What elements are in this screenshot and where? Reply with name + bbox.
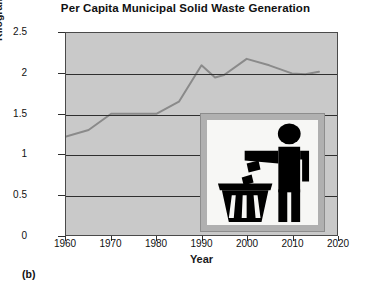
x-tick-label: 1960 bbox=[43, 238, 87, 249]
y-tick-label: 0 bbox=[0, 230, 27, 241]
y-tick-mark bbox=[58, 195, 65, 196]
x-tick-label: 2010 bbox=[271, 238, 315, 249]
y-tick-mark bbox=[58, 73, 65, 74]
y-tick-label: 0.5 bbox=[0, 189, 27, 200]
gridline-y bbox=[66, 74, 337, 75]
x-tick-label: 1980 bbox=[134, 238, 178, 249]
x-tick-label: 2000 bbox=[225, 238, 269, 249]
figure-panel: Per Capita Municipal Solid Waste Generat… bbox=[0, 0, 371, 290]
y-tick-label: 2 bbox=[0, 67, 27, 78]
x-tick-label: 1990 bbox=[180, 238, 224, 249]
y-tick-mark bbox=[58, 114, 65, 115]
panel-label: (b) bbox=[22, 268, 35, 280]
x-tick-label: 2020 bbox=[316, 238, 360, 249]
y-tick-mark bbox=[58, 236, 65, 237]
x-tick-label: 1970 bbox=[89, 238, 133, 249]
y-tick-label: 2.5 bbox=[0, 26, 27, 37]
y-tick-mark bbox=[58, 32, 65, 33]
y-tick-mark bbox=[58, 154, 65, 155]
y-tick-label: 1.5 bbox=[0, 108, 27, 119]
litter-in-bin-icon bbox=[207, 120, 318, 225]
y-tick-label: 1 bbox=[0, 148, 27, 159]
x-axis-title: Year bbox=[65, 253, 338, 265]
waste-pictogram bbox=[200, 113, 325, 232]
pictogram-inner bbox=[207, 120, 318, 225]
chart-title: Per Capita Municipal Solid Waste Generat… bbox=[0, 2, 371, 14]
